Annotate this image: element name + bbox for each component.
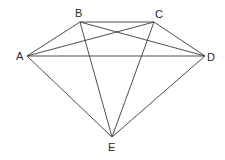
edge-bd [80, 22, 205, 56]
edge-ae [27, 56, 112, 137]
edge-be [80, 22, 112, 137]
vertex-label-e: E [108, 141, 115, 153]
edge-cd [154, 22, 205, 56]
labels-group: ABCDE [16, 7, 215, 153]
graph-diagram: ABCDE [0, 0, 225, 160]
edge-ce [112, 22, 154, 137]
edge-de [112, 56, 205, 137]
edge-ab [27, 22, 80, 56]
vertex-label-c: C [155, 8, 163, 20]
vertex-label-d: D [207, 51, 215, 63]
edge-ac [27, 22, 154, 56]
vertex-label-a: A [16, 50, 24, 62]
edges-group [27, 22, 205, 137]
vertex-label-b: B [75, 7, 82, 19]
